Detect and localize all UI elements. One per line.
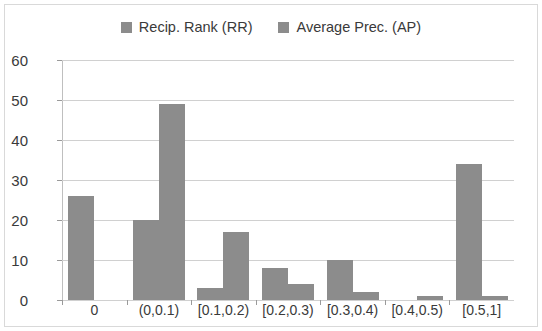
y-axis-tick-label: 30 <box>0 173 28 188</box>
y-axis-tick-label: 40 <box>0 133 28 148</box>
bar-slot <box>353 60 379 300</box>
bar-slot <box>159 60 185 300</box>
bar <box>133 220 159 300</box>
bar-slot <box>288 60 314 300</box>
bar <box>159 104 185 300</box>
bar-group <box>127 60 192 300</box>
legend-swatch-icon <box>121 22 132 33</box>
bar-groups <box>62 60 514 300</box>
bar-group <box>449 60 514 300</box>
bar-slot <box>482 60 508 300</box>
y-axis-tick-label: 60 <box>0 53 28 68</box>
bar <box>262 268 288 300</box>
y-axis-tick-label: 0 <box>0 293 28 308</box>
bar-slot <box>94 60 120 300</box>
bar-group <box>191 60 256 300</box>
x-axis-tick-label: [0.4,0.5) <box>385 303 450 318</box>
y-axis-tick-label: 50 <box>0 93 28 108</box>
bar-slot <box>262 60 288 300</box>
legend-label-recip-rank: Recip. Rank (RR) <box>139 20 253 35</box>
bar <box>482 296 508 300</box>
x-axis-tick-label: [0.3,0.4) <box>320 303 385 318</box>
y-axis-tick-label: 20 <box>0 213 28 228</box>
x-axis-tick-label: 0 <box>62 303 127 318</box>
bar-chart: Recip. Rank (RR) Average Prec. (AP) 0102… <box>0 0 542 331</box>
x-axis-tick-label: [0.5,1] <box>449 303 514 318</box>
chart-legend: Recip. Rank (RR) Average Prec. (AP) <box>0 14 542 40</box>
x-axis-tick-label: [0.2,0.3) <box>256 303 321 318</box>
bar-slot <box>223 60 249 300</box>
bar-slot <box>391 60 417 300</box>
bar <box>68 196 94 300</box>
x-axis-tick-label: (0,0.1) <box>127 303 192 318</box>
legend-label-average-prec: Average Prec. (AP) <box>296 20 421 35</box>
bar-slot <box>197 60 223 300</box>
legend-entry-recip-rank: Recip. Rank (RR) <box>121 20 253 35</box>
bar-group <box>256 60 321 300</box>
x-axis-labels: 0(0,0.1)[0.1,0.2)[0.2,0.3)[0.3,0.4)[0.4,… <box>62 303 514 318</box>
bar-slot <box>68 60 94 300</box>
bar-group <box>385 60 450 300</box>
bar-group <box>62 60 127 300</box>
y-axis-tick-label: 10 <box>0 253 28 268</box>
gridline <box>62 300 514 301</box>
bar <box>223 232 249 300</box>
x-axis-tick-label: [0.1,0.2) <box>191 303 256 318</box>
bar-slot <box>417 60 443 300</box>
bar-group <box>320 60 385 300</box>
plot-area: 0102030405060 <box>62 60 514 300</box>
bar <box>417 296 443 300</box>
bar <box>353 292 379 300</box>
bar <box>456 164 482 300</box>
bar-slot <box>327 60 353 300</box>
bar <box>288 284 314 300</box>
legend-entry-average-prec: Average Prec. (AP) <box>278 20 421 35</box>
bar-slot <box>456 60 482 300</box>
bar-slot <box>133 60 159 300</box>
legend-swatch-icon <box>278 22 289 33</box>
bar <box>327 260 353 300</box>
bar <box>197 288 223 300</box>
